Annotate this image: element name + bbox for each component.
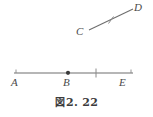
geometry-figure: A B E C D 図2. 22 [0, 0, 153, 117]
point-label-d: D [134, 2, 142, 13]
point-label-a: A [11, 77, 18, 88]
figure-caption: 図2. 22 [0, 94, 153, 109]
point-marker-b [66, 71, 70, 75]
point-label-c: C [76, 26, 83, 37]
caption-kanji: 図 [55, 97, 65, 108]
point-label-e: E [119, 77, 126, 88]
point-label-b: B [63, 77, 70, 88]
caption-number: 2. 22 [66, 96, 98, 109]
